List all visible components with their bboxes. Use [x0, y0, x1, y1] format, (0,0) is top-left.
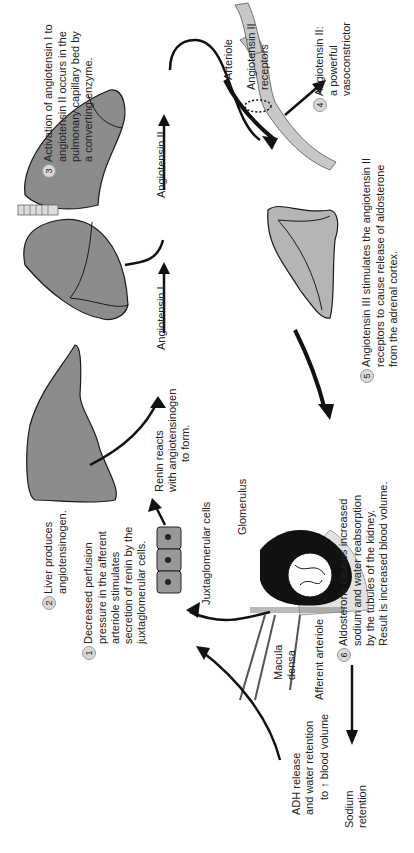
step-2-text: 2Liver produces angiotensinogen.	[42, 510, 69, 610]
renin-label: Renin reacts with angiotensinogen to for…	[153, 389, 192, 492]
macula-densa-label: Macula densa	[272, 645, 298, 680]
sodium-retention-label: Sodium retention	[343, 785, 369, 828]
afferent-arteriole-label: Afferent arteriole	[313, 619, 326, 700]
step-2-badge: 2	[42, 596, 56, 610]
juxtaglomerular-label: Juxtaglomerular cells	[200, 502, 213, 605]
angiotensin-2-label: Angiotensin II	[155, 131, 168, 198]
step-1-badge: 1	[82, 646, 96, 660]
juxtaglomerular-cells-illustration	[157, 527, 181, 593]
blood-volume-label: to ↑ blood volume	[318, 714, 331, 800]
step-4-badge: 4	[313, 98, 327, 112]
adh-release-label: ADH release and water retention	[290, 721, 316, 815]
glomerulus-label: Glomerulus	[236, 479, 249, 535]
adrenal-gland-illustration	[268, 206, 338, 318]
arteriole-label: Arteriole	[222, 39, 235, 80]
step-3-text: 3Activation of angiotensin I to angioten…	[42, 24, 95, 178]
step-5-text: 5Angiotensin III stimulates the angioten…	[360, 158, 400, 383]
step-6-badge: 6	[337, 648, 351, 662]
step-1-text: 1Decreased perfusion pressure in the aff…	[82, 527, 148, 660]
receptors-label: Angiotensin II receptors	[245, 23, 271, 90]
step-6-text: 6Aldosterone causes increased sodium and…	[337, 482, 390, 662]
step-5-badge: 5	[360, 369, 374, 383]
angiotensin-1-label: Angiotensin I	[155, 286, 168, 350]
liver-illustration	[27, 345, 117, 502]
step-4-text: 4Angiotensin II: a powerful vasoconstric…	[313, 22, 353, 112]
step-3-badge: 3	[42, 164, 56, 178]
